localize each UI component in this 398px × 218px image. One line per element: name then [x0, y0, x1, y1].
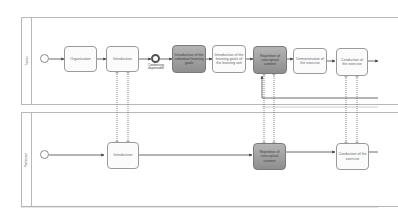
task-label: Repetition of conceptual content	[255, 54, 285, 67]
task-label: Repetition of conceptual content	[255, 150, 284, 163]
task-label: Introduction of the individual learning …	[174, 53, 204, 66]
task-individual-learning-goals[interactable]: Introduction of the individual learning …	[172, 45, 206, 73]
task-conduction-participant[interactable]: Conduction of the exercise	[336, 143, 369, 170]
task-label: Conduction of the exercise	[338, 58, 366, 66]
task-label: Introduction	[114, 153, 133, 157]
task-label: Demonstration of the exercise	[295, 57, 325, 65]
task-label: Introduction	[113, 57, 132, 61]
task-introduction-trainer[interactable]: Introduction	[106, 46, 139, 72]
connectors	[0, 0, 398, 218]
intermediate-event[interactable]	[151, 54, 160, 63]
task-demonstration[interactable]: Demonstration of the exercise	[293, 48, 327, 74]
task-repetition-participant[interactable]: Repetition of conceptual content	[253, 143, 286, 170]
task-learning-unit-goals[interactable]: Introduction of the learning goals of th…	[212, 45, 246, 73]
task-conduction-trainer[interactable]: Conduction of the exercise	[336, 48, 368, 76]
task-repetition-trainer[interactable]: Repetition of conceptual content	[253, 46, 287, 74]
start-event-trainer[interactable]	[40, 54, 49, 63]
caption-line: dispensable	[148, 66, 164, 70]
task-organisation[interactable]: Organisation	[64, 46, 97, 72]
start-event-participant[interactable]	[40, 150, 49, 159]
task-label: Organisation	[70, 57, 90, 61]
intermediate-event-caption: Condensingdispensable	[140, 64, 172, 71]
task-introduction-participant[interactable]: Introduction	[107, 142, 139, 169]
task-label: Conduction of the exercise	[338, 152, 367, 160]
task-label: Introduction of the learning goals of th…	[214, 53, 244, 66]
